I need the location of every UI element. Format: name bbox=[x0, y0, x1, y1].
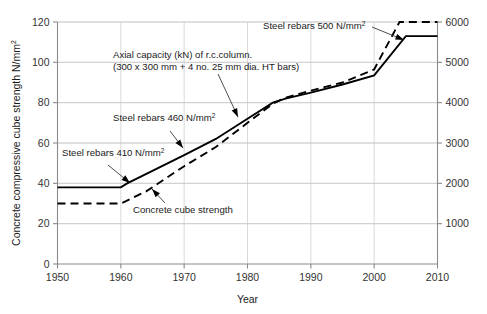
x-tick-label: 2010 bbox=[426, 271, 450, 283]
x-tick-label: 1980 bbox=[236, 271, 260, 283]
y-axis-title: Concrete compressive cube strength N/mm2 bbox=[10, 40, 22, 246]
annotation-text: Steel rebars 410 N/mm2 bbox=[62, 147, 165, 158]
y-tick-label: 20 bbox=[38, 217, 50, 229]
x-tick-label: 1950 bbox=[46, 271, 70, 283]
annotation-text: Axial capacity (kN) of r.c.column. bbox=[113, 49, 252, 60]
line-chart: 020406080100120 100020003000400050006000… bbox=[0, 0, 487, 314]
x-axis-title: Year bbox=[237, 293, 259, 305]
annotation-text: Concrete cube strength bbox=[133, 204, 233, 215]
y2-tick-label: 6000 bbox=[446, 16, 470, 28]
x-tick-label: 1970 bbox=[172, 271, 196, 283]
y-tick-label: 120 bbox=[32, 16, 50, 28]
y-tick-label: 100 bbox=[32, 56, 50, 68]
annotation-text: Steel rebars 500 N/mm2 bbox=[263, 20, 366, 31]
y2-tick-label: 4000 bbox=[446, 96, 470, 108]
y2-tick-label: 1000 bbox=[446, 217, 470, 229]
y2-tick-label: 2000 bbox=[446, 177, 470, 189]
y-tick-label: 60 bbox=[38, 137, 50, 149]
y2-tick-label: 5000 bbox=[446, 56, 470, 68]
x-tick-label: 2000 bbox=[362, 271, 386, 283]
annotation-text: Steel rebars 460 N/mm2 bbox=[113, 112, 216, 123]
chart-container: 020406080100120 100020003000400050006000… bbox=[0, 0, 487, 314]
annotation-text: (300 x 300 mm + 4 no. 25 mm dia. HT bars… bbox=[113, 61, 299, 72]
x-tick-label: 1990 bbox=[299, 271, 323, 283]
y2-tick-label: 3000 bbox=[446, 137, 470, 149]
y-tick-label: 40 bbox=[38, 177, 50, 189]
x-tick-label: 1960 bbox=[109, 271, 133, 283]
y-tick-label: 0 bbox=[44, 258, 50, 270]
y-tick-label: 80 bbox=[38, 96, 50, 108]
